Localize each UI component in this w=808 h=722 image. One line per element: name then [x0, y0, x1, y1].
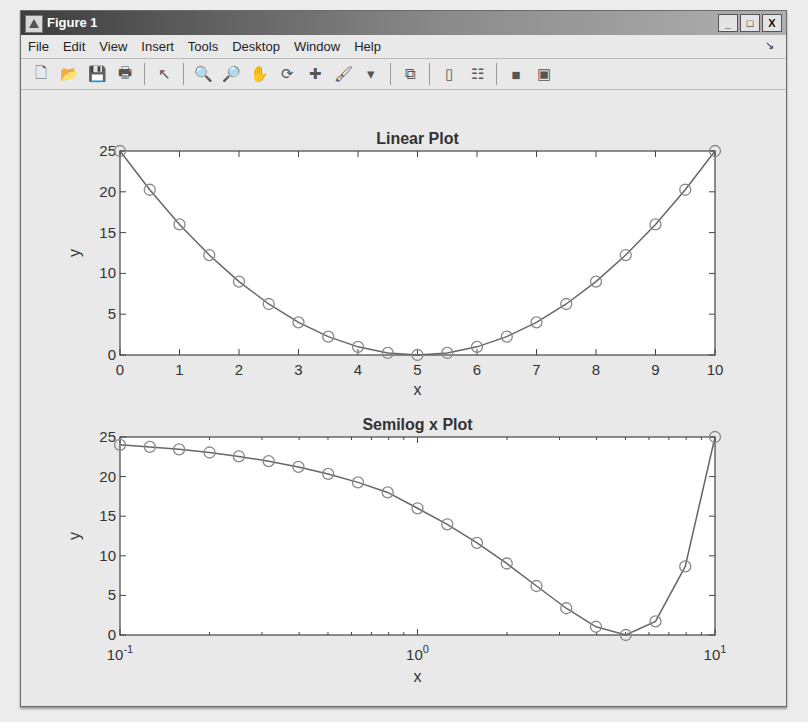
y-axis-label: y: [66, 249, 83, 257]
menu-help[interactable]: Help: [347, 39, 388, 54]
data-cursor-icon[interactable]: ✚: [304, 63, 326, 85]
hide-plot-tools-icon[interactable]: ■: [505, 63, 527, 85]
show-plot-tools-icon[interactable]: ▣: [533, 63, 555, 85]
zoom-in-icon[interactable]: 🔍: [192, 63, 214, 85]
x-tick-label: 0: [116, 361, 124, 378]
x-tick-label: 7: [532, 361, 540, 378]
toolbar-separator: [496, 63, 497, 85]
y-axis-label: y: [66, 532, 83, 540]
y-tick-label: 10: [99, 547, 116, 564]
chart-title: Semilog x Plot: [362, 416, 473, 433]
x-axis-label: x: [414, 381, 422, 398]
chart-title: Linear Plot: [376, 130, 459, 147]
x-tick-label: 4: [354, 361, 362, 378]
axes-2: Semilog x Plot051015202510-1100101xy: [66, 416, 726, 685]
zoom-out-icon[interactable]: 🔎: [220, 63, 242, 85]
menu-desktop[interactable]: Desktop: [225, 39, 287, 54]
figure-window: Figure 1 _ □ X File Edit View Insert Too…: [20, 10, 787, 707]
figure-canvas: Linear Plot0510152025012345678910xySemil…: [21, 91, 786, 706]
x-tick-label: 8: [592, 361, 600, 378]
maximize-button[interactable]: □: [740, 14, 760, 32]
x-tick-label: 10-1: [107, 643, 133, 663]
toolbar-separator: [429, 63, 430, 85]
x-tick-label: 10: [707, 361, 724, 378]
axes-box: [120, 151, 715, 355]
x-tick-label: 9: [651, 361, 659, 378]
y-tick-label: 0: [108, 346, 116, 363]
link-plot-icon[interactable]: ⧉: [399, 63, 421, 85]
brush-icon[interactable]: 🖌: [332, 63, 354, 85]
pan-hand-icon[interactable]: ✋: [248, 63, 270, 85]
menu-insert[interactable]: Insert: [134, 39, 181, 54]
menu-edit[interactable]: Edit: [56, 39, 92, 54]
menu-window[interactable]: Window: [287, 39, 347, 54]
brush-dropdown-icon[interactable]: ▾: [360, 63, 382, 85]
dock-arrow-icon[interactable]: ↘: [765, 39, 774, 52]
y-tick-label: 15: [99, 224, 116, 241]
menu-view[interactable]: View: [92, 39, 134, 54]
toolbar-separator: [390, 63, 391, 85]
figure-toolbar: 🗋📂💾🖶↖🔍🔎✋⟳✚🖌▾⧉▯☷■▣: [21, 58, 786, 90]
new-figure-icon[interactable]: 🗋: [30, 63, 52, 85]
rotate-3d-icon[interactable]: ⟳: [276, 63, 298, 85]
axes-1: Linear Plot0510152025012345678910xy: [66, 130, 723, 398]
open-file-icon[interactable]: 📂: [58, 63, 80, 85]
plot-area: Linear Plot0510152025012345678910xySemil…: [21, 91, 786, 706]
legend-icon[interactable]: ☷: [466, 63, 488, 85]
y-tick-label: 25: [99, 142, 116, 159]
y-tick-label: 10: [99, 264, 116, 281]
matlab-logo-icon: [25, 15, 43, 33]
x-tick-label: 1: [175, 361, 183, 378]
menu-file[interactable]: File: [21, 39, 56, 54]
x-tick-label: 6: [473, 361, 481, 378]
title-bar[interactable]: Figure 1 _ □ X: [21, 11, 786, 35]
x-tick-label: 2: [235, 361, 243, 378]
minimize-button[interactable]: _: [718, 14, 738, 32]
y-tick-label: 20: [99, 183, 116, 200]
y-tick-label: 15: [99, 507, 116, 524]
y-tick-label: 0: [108, 626, 116, 643]
menu-tools[interactable]: Tools: [181, 39, 225, 54]
toolbar-separator: [144, 63, 145, 85]
menu-bar: File Edit View Insert Tools Desktop Wind…: [21, 36, 786, 56]
pointer-icon[interactable]: ↖: [153, 63, 175, 85]
y-tick-label: 5: [108, 586, 116, 603]
print-icon[interactable]: 🖶: [114, 63, 136, 85]
x-tick-label: 100: [406, 643, 429, 663]
colorbar-icon[interactable]: ▯: [438, 63, 460, 85]
y-tick-label: 20: [99, 468, 116, 485]
x-tick-label: 101: [704, 643, 727, 663]
y-tick-label: 5: [108, 305, 116, 322]
window-title: Figure 1: [47, 15, 98, 30]
axes-box: [120, 437, 715, 635]
save-icon[interactable]: 💾: [86, 63, 108, 85]
toolbar-separator: [183, 63, 184, 85]
close-button[interactable]: X: [762, 14, 782, 32]
y-tick-label: 25: [99, 428, 116, 445]
x-tick-label: 5: [413, 361, 421, 378]
x-tick-label: 3: [294, 361, 302, 378]
x-axis-label: x: [414, 668, 422, 685]
